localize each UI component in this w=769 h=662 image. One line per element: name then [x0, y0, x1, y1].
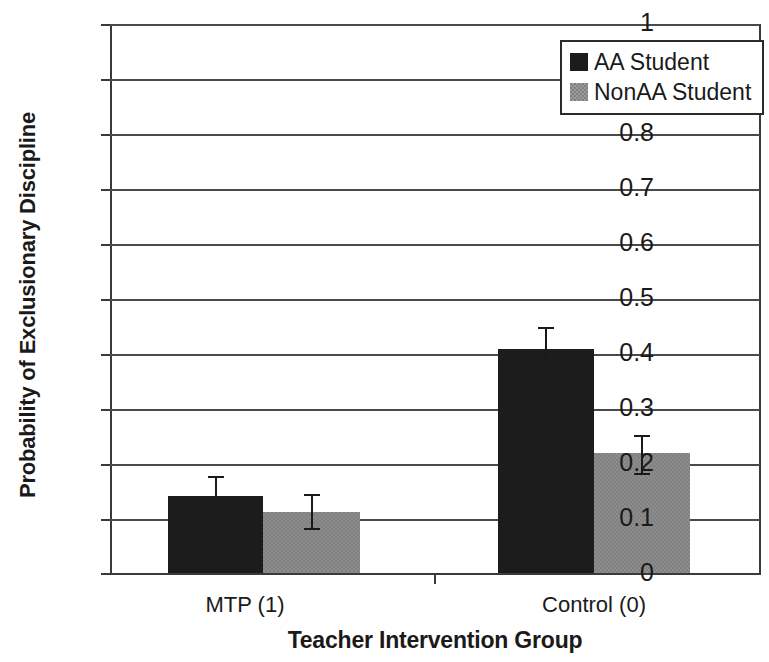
gridline-0.3 — [110, 409, 760, 411]
ytick-mark-1.0 — [101, 24, 110, 26]
errorbar-cap-top — [538, 327, 554, 329]
ytick-mark-0.4 — [101, 354, 110, 356]
errorbar-cap-bottom — [304, 528, 320, 530]
ytick-mark-0.9 — [101, 79, 110, 81]
legend-label-aa-student: AA Student — [594, 51, 709, 74]
xcat-label-mtp: MTP (1) — [155, 592, 335, 618]
ytick-mark-0 — [101, 573, 110, 575]
legend-item-nonaa-student: NonAA Student — [570, 77, 751, 107]
ytick-label-0.8: 0.8 — [564, 120, 654, 145]
errorbar-cap-top — [208, 476, 224, 478]
legend-swatch-nonaa-icon — [570, 83, 588, 101]
legend: AA Student NonAA Student — [560, 40, 764, 115]
ytick-label-0.7: 0.7 — [564, 175, 654, 200]
errorbar-stem — [215, 476, 217, 509]
ytick-mark-0.6 — [101, 244, 110, 246]
legend-swatch-aa-icon — [570, 53, 588, 71]
ytick-label-0: 0 — [564, 560, 654, 585]
bar-chart-figure: Probability of Exclusionary Discipline — [0, 0, 769, 662]
ytick-label-0.3: 0.3 — [564, 395, 654, 420]
ytick-mark-0.3 — [101, 409, 110, 411]
gridline-0.4 — [110, 354, 760, 356]
errorbar-stem — [545, 327, 547, 366]
gridline-1.0 — [110, 24, 760, 26]
ytick-mark-0.8 — [101, 134, 110, 136]
x-axis-title: Teacher Intervention Group — [110, 627, 760, 654]
ytick-mark-0.1 — [101, 519, 110, 521]
gridline-0.8 — [110, 134, 760, 136]
errorbar-stem — [311, 494, 313, 530]
ytick-mark-0.2 — [101, 464, 110, 466]
errorbar-cap-bottom — [208, 507, 224, 509]
ytick-label-1.0: 1 — [564, 10, 654, 35]
legend-item-aa-student: AA Student — [570, 47, 751, 77]
errorbar-cap-top — [634, 435, 650, 437]
gridline-0.5 — [110, 299, 760, 301]
ytick-label-0.4: 0.4 — [564, 340, 654, 365]
y-axis-title: Probability of Exclusionary Discipline — [15, 25, 41, 585]
ytick-label-0.2: 0.2 — [564, 450, 654, 475]
legend-label-nonaa-student: NonAA Student — [594, 81, 751, 104]
errorbar-cap-bottom — [538, 364, 554, 366]
gridline-0.7 — [110, 189, 760, 191]
ytick-label-0.1: 0.1 — [564, 505, 654, 530]
ytick-mark-0.5 — [101, 299, 110, 301]
xcat-label-control: Control (0) — [504, 592, 684, 618]
ytick-label-0.5: 0.5 — [564, 285, 654, 310]
gridline-0.6 — [110, 244, 760, 246]
xtick-mark-group-divider — [434, 574, 436, 584]
ytick-mark-0.7 — [101, 189, 110, 191]
ytick-label-0.6: 0.6 — [564, 230, 654, 255]
errorbar-cap-top — [304, 494, 320, 496]
